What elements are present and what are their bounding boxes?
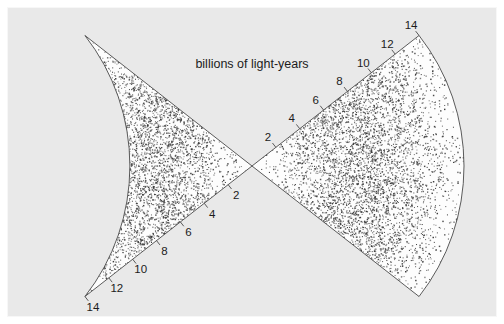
axis-unit-caption: billions of light-years <box>195 57 308 71</box>
tick-label-right-12: 12 <box>381 38 394 50</box>
tick-label-left-14: 14 <box>87 301 100 313</box>
tick-label-right-8: 8 <box>336 75 342 87</box>
tick-label-left-4: 4 <box>209 208 216 220</box>
tick-label-left-6: 6 <box>185 226 191 238</box>
tick-label-right-14: 14 <box>405 19 418 31</box>
tick-label-left-10: 10 <box>134 263 147 275</box>
redshift-survey-figure: 2468101214 2468101214 billions of light-… <box>0 0 504 324</box>
tick-label-left-2: 2 <box>233 189 239 201</box>
tick-label-right-2: 2 <box>265 131 271 143</box>
bowtie-scatter-plot: 2468101214 2468101214 billions of light-… <box>0 0 504 324</box>
tick-label-right-4: 4 <box>289 112 296 124</box>
tick-label-right-10: 10 <box>357 57 370 69</box>
tick-label-left-8: 8 <box>161 245 167 257</box>
tick-label-left-12: 12 <box>110 282 123 294</box>
tick-label-right-6: 6 <box>312 94 318 106</box>
